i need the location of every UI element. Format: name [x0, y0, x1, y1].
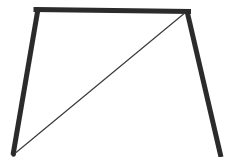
top-right-vertex-join	[184, 9, 189, 14]
top-edge-line	[36, 10, 189, 12]
top-left-vertex-join	[36, 8, 41, 13]
bottom-left-vertex-join	[11, 152, 15, 156]
geometry-figure-canvas: Trapezoid with one diagonal drawn	[0, 0, 229, 157]
geometry-figure-svg: Trapezoid with one diagonal drawn	[0, 0, 229, 157]
